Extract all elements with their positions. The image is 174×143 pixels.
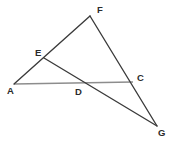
geometry-canvas (0, 0, 174, 143)
segment-fg (90, 16, 157, 126)
point-label-c: C (137, 73, 144, 83)
geometry-figure: F E A D C G (0, 0, 174, 143)
point-label-d: D (75, 87, 82, 97)
point-label-g: G (158, 128, 165, 138)
point-label-e: E (35, 48, 41, 58)
segment-eg (44, 58, 157, 126)
segment-ac (14, 82, 133, 84)
segment-af (14, 16, 90, 84)
point-label-a: A (7, 86, 14, 96)
point-label-f: F (97, 5, 103, 15)
